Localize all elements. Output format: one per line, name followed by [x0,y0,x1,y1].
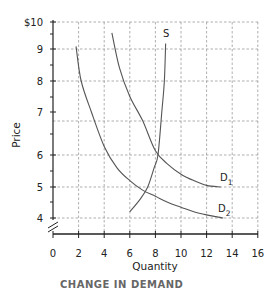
curve-s [130,44,166,212]
curve-label-d2: D2 [218,203,231,218]
x-tick-label: 14 [226,248,239,259]
x-tick-label: 16 [251,248,264,259]
y-tick-label: 9 [37,44,43,55]
grid-lines [53,22,258,234]
y-tick-label: 8 [37,76,43,87]
x-tick-label: 12 [200,248,213,259]
y-tick-label: $10 [24,17,43,28]
y-axis-title: Price [10,122,22,148]
x-axis-title: Quantity [132,260,177,272]
curve-label-s: S [163,28,169,39]
x-tick-label: 2 [75,248,81,259]
x-tick-label: 0 [50,248,56,259]
curves [76,33,223,218]
y-tick-label: 6 [37,150,43,161]
x-tick-label: 4 [101,248,107,259]
y-tick-label: 7 [37,107,43,118]
y-tick-label: 4 [37,213,43,224]
x-tick-label: 8 [152,248,158,259]
y-tick-label: 5 [37,182,43,193]
x-tick-label: 10 [175,248,188,259]
curve-d1 [112,33,221,187]
x-tick-label: 6 [127,248,133,259]
axes [48,20,258,238]
figure-caption: CHANGE IN DEMAND [60,279,183,290]
curve-d2 [76,46,223,218]
curve-label-d1: D1 [220,172,233,187]
tick-labels: 456789$100246810121416SD1D2 [24,17,264,259]
